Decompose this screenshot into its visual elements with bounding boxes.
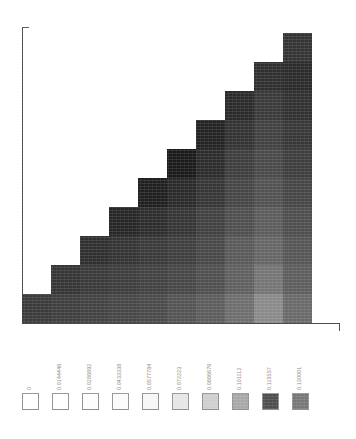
colorbar-tick-label: 0.101112 [232, 348, 246, 390]
heatmap-cell [254, 265, 283, 294]
heatmap-cell [225, 149, 254, 178]
heatmap-cell [225, 294, 254, 323]
heatmap-cell [80, 236, 109, 265]
x-axis-line [22, 323, 340, 324]
colorbar-entry: 0.0433338 [112, 352, 142, 424]
heatmap-cell [225, 178, 254, 207]
heatmap-cell [196, 236, 225, 265]
heatmap-cell [109, 207, 138, 236]
heatmap-cell [283, 149, 312, 178]
heatmap-cell [138, 294, 167, 323]
heatmap-cell [196, 149, 225, 178]
heatmap-cell [22, 294, 51, 323]
colorbar-entry: 0.0288892 [82, 352, 112, 424]
heatmap-cell [51, 294, 80, 323]
heatmap-cell [80, 265, 109, 294]
colorbar-swatch [82, 393, 99, 410]
heatmap-cell [225, 236, 254, 265]
heatmap-cell [196, 178, 225, 207]
heatmap-cell [283, 236, 312, 265]
x-axis-tick [339, 323, 340, 331]
heatmap-cell [109, 294, 138, 323]
heatmap-cell [254, 91, 283, 120]
colorbar-entry: 0.101112 [232, 352, 262, 424]
heatmap-cell [167, 149, 196, 178]
heatmap-cell [196, 265, 225, 294]
colorbar-swatch [172, 393, 189, 410]
colorbar-legend: 00.01444460.02888920.04333380.05777840.0… [0, 352, 356, 424]
colorbar-swatch [292, 393, 309, 410]
colorbar-tick-label: 0.115557 [262, 348, 276, 390]
heatmap-cell [254, 207, 283, 236]
heatmap-cell [254, 149, 283, 178]
heatmap-cell [138, 207, 167, 236]
heatmap-cell [167, 178, 196, 207]
heatmap-cell [254, 178, 283, 207]
heatmap-cell [254, 294, 283, 323]
heatmap-cell [283, 91, 312, 120]
heatmap-plot-area [22, 27, 340, 323]
heatmap-cell [138, 236, 167, 265]
colorbar-swatch [202, 393, 219, 410]
heatmap-cell [225, 207, 254, 236]
heatmap-cell [138, 178, 167, 207]
heatmap-figure: 00.01444460.02888920.04333380.05777840.0… [0, 0, 356, 439]
heatmap-cell [283, 294, 312, 323]
heatmap-cell [225, 120, 254, 149]
heatmap-cell [167, 265, 196, 294]
colorbar-entry: 0.0144446 [52, 352, 82, 424]
heatmap-cell [51, 265, 80, 294]
colorbar-tick-label: 0.0433338 [112, 348, 126, 390]
heatmap-cell [196, 294, 225, 323]
heatmap-cell [283, 33, 312, 62]
colorbar-tick-label: 0.0866676 [202, 348, 216, 390]
colorbar-tick-label: 0 [22, 348, 36, 390]
colorbar-swatch [52, 393, 69, 410]
colorbar-swatch [142, 393, 159, 410]
heatmap-cell [225, 265, 254, 294]
heatmap-cell [196, 120, 225, 149]
colorbar-swatch [262, 393, 279, 410]
colorbar-entry: 0.072223 [172, 352, 202, 424]
heatmap-cell [283, 265, 312, 294]
heatmap-cell [167, 207, 196, 236]
heatmap-cell [196, 207, 225, 236]
heatmap-cell [225, 91, 254, 120]
heatmap-cell [283, 178, 312, 207]
colorbar-entry: 0.130001 [292, 352, 322, 424]
colorbar-tick-label: 0.0144446 [52, 348, 66, 390]
heatmap-cell [254, 236, 283, 265]
heatmap-cell [109, 236, 138, 265]
colorbar-tick-label: 0.0288892 [82, 348, 96, 390]
heatmap-cell [283, 62, 312, 91]
heatmap-cell [283, 120, 312, 149]
heatmap-cell [254, 62, 283, 91]
colorbar-entry: 0.0866676 [202, 352, 232, 424]
colorbar-tick-label: 0.072223 [172, 348, 186, 390]
colorbar-swatch [112, 393, 129, 410]
heatmap-cell [167, 294, 196, 323]
heatmap-cell [167, 236, 196, 265]
colorbar-entry: 0.0577784 [142, 352, 172, 424]
colorbar-entry: 0 [22, 352, 52, 424]
colorbar-swatch [22, 393, 39, 410]
heatmap-cell [109, 265, 138, 294]
colorbar-swatch [232, 393, 249, 410]
heatmap-cell [254, 120, 283, 149]
heatmap-cell [80, 294, 109, 323]
colorbar-entry: 0.115557 [262, 352, 292, 424]
heatmap-cell [283, 207, 312, 236]
heatmap-cell [138, 265, 167, 294]
colorbar-tick-label: 0.0577784 [142, 348, 156, 390]
colorbar-tick-label: 0.130001 [292, 348, 306, 390]
